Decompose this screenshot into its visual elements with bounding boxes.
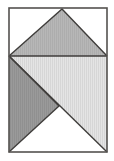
geometric-figure-canvas: Shaded geometric figure Upright rectangl… [0,0,114,161]
figure-svg-root: Shaded geometric figure Upright rectangl… [0,0,114,161]
